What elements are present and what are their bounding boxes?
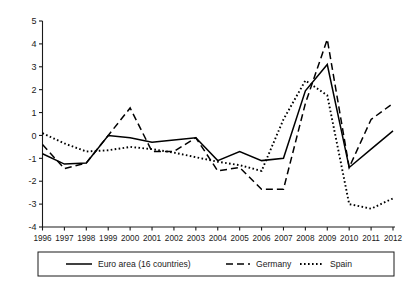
- y-tick-label: 4: [31, 39, 36, 49]
- legend-label: Spain: [330, 259, 352, 269]
- chart-legend: Euro area (16 countries)GermanySpain: [38, 252, 394, 276]
- y-tick-label: 0: [31, 131, 36, 141]
- x-tick-label: 2009: [318, 234, 337, 243]
- x-axis-tick-labels: 1996199719981999200020012002200320042005…: [33, 234, 402, 243]
- y-tick-label: -2: [28, 176, 36, 186]
- line-chart: 543210-1-2-3-4 1996199719981999200020012…: [0, 0, 412, 288]
- y-tick-label: -1: [28, 154, 36, 164]
- chart-canvas: 543210-1-2-3-4 1996199719981999200020012…: [0, 0, 412, 288]
- data-series-group: [43, 39, 394, 208]
- y-tick-label: -3: [28, 199, 36, 209]
- y-tick-label: 3: [31, 62, 36, 72]
- x-tick-label: 2012: [384, 234, 403, 243]
- x-tick-label: 2005: [231, 234, 250, 243]
- y-axis-tick-labels: 543210-1-2-3-4: [28, 16, 36, 232]
- x-tick-label: 2003: [187, 234, 206, 243]
- x-tick-label: 2011: [362, 234, 380, 243]
- y-tick-label: 1: [31, 108, 36, 118]
- x-tick-label: 1998: [77, 234, 96, 243]
- x-tick-label: 2001: [143, 234, 162, 243]
- x-tick-label: 2004: [209, 234, 228, 243]
- series-line: [43, 81, 394, 209]
- x-tick-label: 2008: [296, 234, 315, 243]
- x-tick-label: 1997: [55, 234, 74, 243]
- y-tick-label: -4: [28, 222, 36, 232]
- legend-label: Germany: [256, 259, 292, 269]
- x-tick-label: 2007: [274, 234, 293, 243]
- x-tick-label: 2000: [121, 234, 140, 243]
- x-tick-label: 1999: [99, 234, 118, 243]
- legend-label: Euro area (16 countries): [98, 259, 191, 269]
- y-tick-label: 5: [31, 16, 36, 26]
- x-tick-label: 2002: [165, 234, 184, 243]
- x-tick-label: 2010: [340, 234, 359, 243]
- series-line: [43, 39, 394, 189]
- x-tick-label: 1996: [33, 234, 52, 243]
- y-tick-label: 2: [31, 85, 36, 95]
- x-tick-label: 2006: [252, 234, 271, 243]
